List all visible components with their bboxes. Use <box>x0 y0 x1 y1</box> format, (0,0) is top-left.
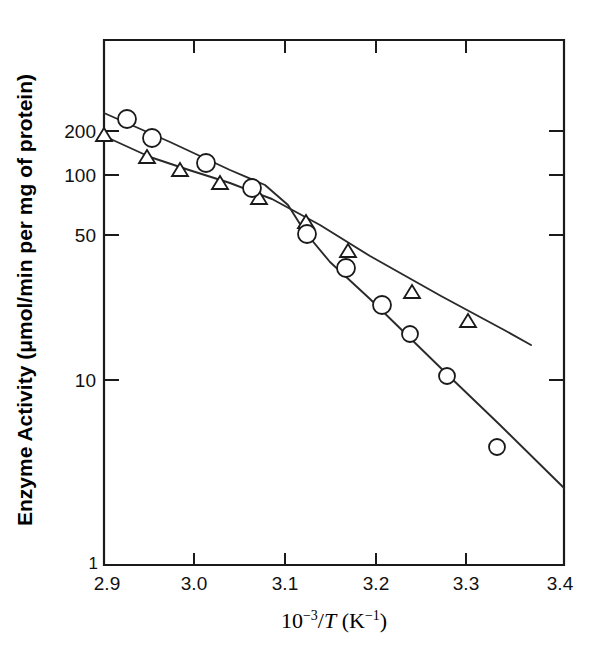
triangle-marker <box>460 314 476 327</box>
xtitle-units-close: ) <box>380 608 387 633</box>
circle-markers <box>118 110 505 455</box>
x-tick-label-3.0: 3.0 <box>181 573 207 594</box>
plot-frame <box>104 40 564 565</box>
circle-marker <box>143 129 161 147</box>
circle-marker <box>489 439 505 455</box>
x-axis-ticks-bottom <box>194 553 466 565</box>
y-tick-label-100: 100 <box>64 165 96 186</box>
x-axis-ticks-top <box>194 40 466 53</box>
y-axis-ticks-right <box>549 131 564 380</box>
circle-marker <box>402 326 418 342</box>
circle-marker <box>373 296 391 314</box>
circle-marker <box>243 179 261 197</box>
xtitle-units-open: (K <box>336 608 365 633</box>
arrhenius-plot-figure: 200 100 50 10 1 2.9 3.0 3.1 3.2 3.3 3.4 … <box>0 0 602 653</box>
y-tick-label-200: 200 <box>64 121 96 142</box>
x-tick-labels: 2.9 3.0 3.1 3.2 3.3 3.4 <box>94 573 574 594</box>
triangle-marker <box>139 150 155 163</box>
x-axis-title: 10−3/T (K−1) <box>281 608 387 633</box>
plot-canvas: 200 100 50 10 1 2.9 3.0 3.1 3.2 3.3 3.4 … <box>0 0 602 653</box>
circle-marker <box>439 368 455 384</box>
xtitle-base: 10 <box>281 608 303 633</box>
circle-series-line <box>104 113 564 488</box>
triangle-marker <box>96 128 112 141</box>
y-axis-ticks-left <box>104 131 119 380</box>
y-tick-label-1: 1 <box>89 554 98 573</box>
xtitle-exponent: −3 <box>303 608 318 623</box>
circle-marker <box>337 259 355 277</box>
axes-box <box>104 40 564 565</box>
x-tick-label-3.3: 3.3 <box>453 573 479 594</box>
x-tick-label-3.4: 3.4 <box>547 573 574 594</box>
xtitle-units-exponent: −1 <box>365 608 380 623</box>
x-tick-label-2.9: 2.9 <box>94 573 120 594</box>
circle-marker <box>118 110 136 128</box>
x-tick-label-3.2: 3.2 <box>363 573 389 594</box>
svg-text:10−3/T (K−1): 10−3/T (K−1) <box>281 608 387 633</box>
circle-marker <box>197 154 215 172</box>
y-tick-label-50: 50 <box>75 225 96 246</box>
triangle-marker <box>404 285 420 298</box>
y-axis-title: Enzyme Activity (μmol/min per mg of prot… <box>13 74 36 526</box>
y-tick-label-10: 10 <box>75 370 96 391</box>
y-tick-labels: 200 100 50 10 1 <box>64 121 98 573</box>
y-axis-title-text: Enzyme Activity (μmol/min per mg of prot… <box>13 74 36 526</box>
x-tick-label-3.1: 3.1 <box>272 573 298 594</box>
circle-marker <box>298 225 316 243</box>
triangle-series-line <box>104 136 531 345</box>
